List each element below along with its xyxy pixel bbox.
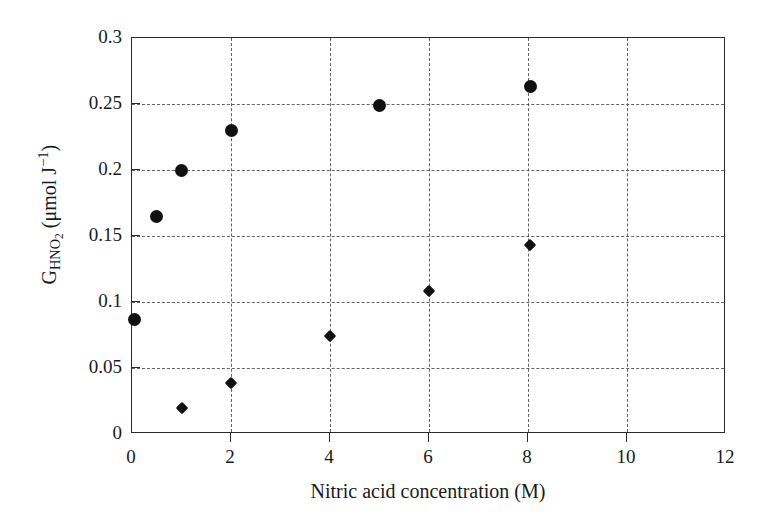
data-point-circles	[225, 124, 238, 137]
gridline-horizontal	[132, 104, 724, 105]
y-axis-tick-label: 0.2	[52, 159, 122, 178]
x-axis-tick	[527, 433, 528, 442]
data-point-circles	[524, 80, 537, 93]
data-point-diamonds	[175, 401, 188, 414]
y-axis-tick-label: 0.05	[52, 357, 122, 376]
x-axis-tick	[230, 433, 231, 442]
plot-area	[131, 37, 725, 433]
x-axis-tick	[329, 433, 330, 442]
x-axis-tick-label: 10	[596, 447, 656, 466]
y-axis-tick	[131, 235, 140, 236]
gridline-vertical	[231, 38, 232, 432]
y-axis-title-units-close: )	[38, 145, 60, 152]
gridline-vertical	[528, 38, 529, 432]
gridline-vertical	[627, 38, 628, 432]
x-axis-tick-label: 8	[497, 447, 557, 466]
y-axis-tick-label: 0.3	[52, 27, 122, 46]
gridline-horizontal	[132, 302, 724, 303]
x-axis-tick-label: 2	[200, 447, 260, 466]
x-axis-tick	[626, 433, 627, 442]
x-axis-tick-label: 12	[695, 447, 755, 466]
data-point-circles	[150, 210, 163, 223]
y-axis-tick-label: 0.15	[52, 225, 122, 244]
data-point-diamonds	[324, 330, 337, 343]
data-point-circles	[175, 164, 188, 177]
x-axis-tick-label: 0	[101, 447, 161, 466]
y-axis-tick-label: 0	[52, 423, 122, 442]
y-axis-tick-label: 0.25	[52, 93, 122, 112]
y-axis-title-base: G	[38, 270, 60, 284]
y-axis-tick	[131, 367, 140, 368]
gridline-vertical	[330, 38, 331, 432]
data-point-diamonds	[423, 285, 436, 298]
data-point-diamonds	[524, 239, 537, 252]
x-axis-title: Nitric acid concentration (M)	[131, 480, 725, 503]
x-axis-tick-label: 6	[398, 447, 458, 466]
y-axis-tick	[131, 301, 140, 302]
y-axis-tick	[131, 103, 140, 104]
x-axis-tick-label: 4	[299, 447, 359, 466]
y-axis-tick-label: 0.1	[52, 291, 122, 310]
gridline-vertical	[429, 38, 430, 432]
y-axis-tick	[131, 169, 140, 170]
chart-figure: Nitric acid concentration (M) GHNO2 (μmo…	[0, 0, 777, 516]
data-point-circles	[128, 313, 141, 326]
data-point-diamonds	[225, 376, 238, 389]
y-axis-title-units-sup: −1	[35, 152, 51, 167]
gridline-horizontal	[132, 368, 724, 369]
data-point-circles	[373, 99, 386, 112]
gridline-horizontal	[132, 236, 724, 237]
gridline-horizontal	[132, 170, 724, 171]
y-axis-title: GHNO2 (μmol J−1)	[35, 15, 64, 415]
x-axis-tick	[428, 433, 429, 442]
